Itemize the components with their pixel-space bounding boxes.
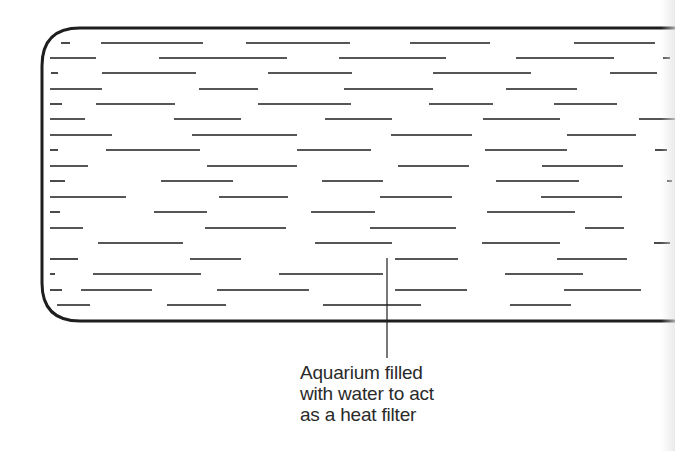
aquarium-tank-outline bbox=[42, 28, 675, 321]
callout-label-line-2: with water to act bbox=[300, 383, 560, 404]
callout-label: Aquarium filled with water to act as a h… bbox=[300, 362, 560, 425]
callout-label-line-3: as a heat filter bbox=[300, 404, 560, 425]
callout-label-line-1: Aquarium filled bbox=[300, 362, 560, 383]
page-edge-shadow bbox=[661, 0, 675, 451]
water-lines bbox=[50, 43, 675, 305]
